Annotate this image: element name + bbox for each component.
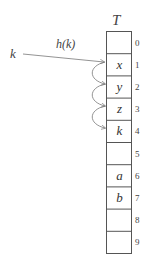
index-6: 6 <box>135 171 140 181</box>
index-5: 5 <box>135 149 140 159</box>
index-0: 0 <box>135 38 140 48</box>
probe-arrow-1-2 <box>92 62 105 84</box>
cell-4: k <box>107 123 132 139</box>
table-title: T <box>112 12 120 29</box>
index-3: 3 <box>135 104 140 114</box>
cell-6: a <box>107 168 132 184</box>
key-label: k <box>10 46 16 62</box>
cell-3: z <box>107 101 132 117</box>
index-2: 2 <box>135 82 140 92</box>
hash-function-label: h(k) <box>56 37 75 52</box>
index-7: 7 <box>135 193 140 203</box>
cell-2: y <box>107 79 132 95</box>
index-1: 1 <box>135 60 140 70</box>
probe-arrow-2-3 <box>92 84 105 106</box>
hash-arrow <box>23 54 104 62</box>
probe-arrow-3-4 <box>92 106 105 128</box>
index-9: 9 <box>135 237 140 247</box>
cell-1: x <box>107 57 132 73</box>
cell-7: b <box>107 190 132 206</box>
index-4: 4 <box>135 126 140 136</box>
index-8: 8 <box>135 215 140 225</box>
